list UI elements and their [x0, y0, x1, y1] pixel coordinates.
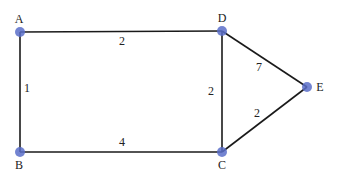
edges — [20, 31, 307, 152]
nodes — [15, 26, 312, 157]
edge-weight-D-E: 7 — [256, 60, 262, 74]
edge-weight-D-C: 2 — [208, 84, 214, 98]
edge-weight-A-B: 1 — [24, 81, 30, 95]
graph-svg: 214272ABCDE — [0, 0, 341, 178]
graph-diagram: 214272ABCDE — [0, 0, 341, 178]
node-label-A: A — [15, 12, 24, 26]
node-label-E: E — [316, 80, 323, 94]
node-label-D: D — [218, 11, 227, 25]
edge-weight-C-E: 2 — [254, 106, 260, 120]
edge-C-E — [222, 87, 307, 152]
node-B — [15, 147, 25, 157]
node-E — [302, 82, 312, 92]
node-D — [217, 26, 227, 36]
node-C — [217, 147, 227, 157]
labels: 214272ABCDE — [15, 11, 324, 172]
edge-D-E — [222, 31, 307, 87]
node-label-C: C — [218, 158, 226, 172]
node-label-B: B — [15, 158, 23, 172]
edge-A-D — [20, 31, 222, 32]
edge-weight-A-D: 2 — [119, 34, 125, 48]
node-A — [15, 27, 25, 37]
edge-weight-B-C: 4 — [119, 135, 125, 149]
